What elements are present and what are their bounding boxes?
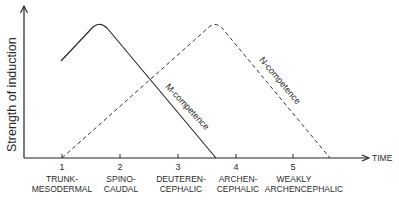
tick-5-label-line2: ARCHENCEPHALIC — [265, 184, 343, 194]
x-axis-label: TIME — [372, 153, 393, 163]
tick-1-label-line1: TRUNK- — [46, 174, 78, 184]
tick-1-label-line2: MESODERMAL — [32, 184, 93, 194]
tick-2-label-line1: SPINO- — [106, 174, 135, 184]
tick-5-number: 5 — [290, 162, 295, 172]
tick-3-number: 3 — [175, 162, 180, 172]
induction-competence-diagram: M-competence N-competence Strength of in… — [0, 0, 399, 204]
y-axis-label: Strength of induction — [5, 37, 19, 152]
tick-4-label-line1: ARCHEN- — [219, 174, 258, 184]
tick-3-label-line2: CEPHALIC — [160, 184, 203, 194]
tick-4-label-line2: CEPHALIC — [217, 184, 260, 194]
tick-3-label-line1: DEUTEREN- — [156, 174, 206, 184]
tick-1-number: 1 — [59, 162, 64, 172]
tick-5-label-line1: WEAKLY — [277, 174, 312, 184]
tick-2-label-line2: CAUDAL — [104, 184, 139, 194]
tick-2-number: 2 — [117, 162, 122, 172]
tick-4-number: 4 — [233, 162, 238, 172]
